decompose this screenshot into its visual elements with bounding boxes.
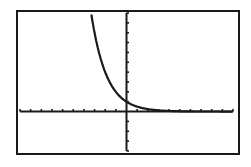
exponential-decay-curve bbox=[91, 15, 232, 112]
function-plot bbox=[0, 0, 251, 167]
